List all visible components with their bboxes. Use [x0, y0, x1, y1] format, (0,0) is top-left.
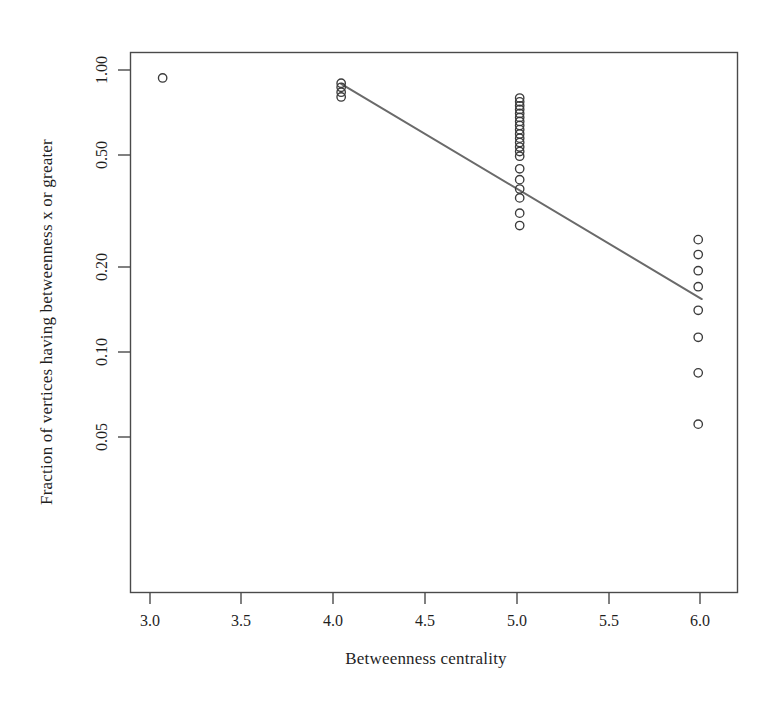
y-tick-label: 0.05 [93, 423, 110, 451]
y-tick-label: 1.00 [93, 56, 110, 84]
x-tick-label: 6.0 [690, 612, 710, 629]
x-tick-label: 4.5 [415, 612, 435, 629]
y-tick-label: 0.50 [93, 141, 110, 169]
x-tick-label: 4.0 [323, 612, 343, 629]
y-tick-label: 0.10 [93, 338, 110, 366]
x-tick-label: 5.0 [507, 612, 527, 629]
scatter-plot: 3.0 3.5 4.0 4.5 5.0 5.5 6.0 1.00 0.50 0.… [0, 0, 760, 707]
x-tick-label: 5.5 [599, 612, 619, 629]
y-tick-label: 0.20 [93, 253, 110, 281]
x-tick-label: 3.5 [231, 612, 251, 629]
x-tick-label: 3.0 [140, 612, 160, 629]
x-axis-title: Betweenness centrality [345, 649, 507, 668]
figure-root: 3.0 3.5 4.0 4.5 5.0 5.5 6.0 1.00 0.50 0.… [0, 0, 760, 707]
y-axis-title: Fraction of vertices having betweenness … [37, 139, 56, 505]
